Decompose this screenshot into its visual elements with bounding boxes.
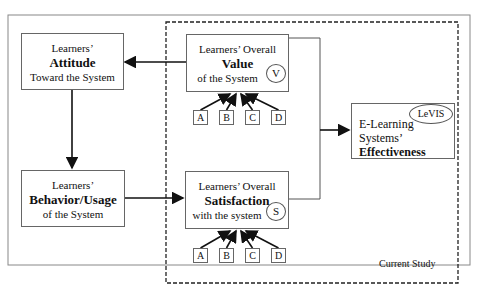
satisfaction-factor-arrow: [227, 231, 237, 248]
satisfaction-line1: Learners’ Overall: [186, 179, 288, 193]
value-factor-arrow: [201, 94, 231, 110]
behavior-title: Behavior/Usage: [22, 192, 124, 207]
behavior-line1: Learners’: [22, 178, 124, 192]
satisfaction-factor-d: D: [271, 248, 286, 263]
connector-value-satisfaction: [288, 38, 320, 199]
value-factor-c: C: [245, 110, 260, 125]
levis-badge: LeVIS: [409, 104, 453, 124]
current-study-label: Current Study: [379, 258, 435, 269]
value-factor-arrow: [227, 94, 237, 110]
satisfaction-factor-arrow: [201, 231, 231, 248]
effectiveness-line2: Systems’: [359, 131, 454, 145]
behavior-box: Learners’ Behavior/Usage of the System: [21, 170, 125, 227]
satisfaction-badge: S: [266, 202, 286, 221]
attitude-title: Attitude: [22, 55, 123, 70]
satisfaction-factor-b: B: [219, 248, 234, 263]
value-line1: Learners’ Overall: [187, 42, 288, 56]
value-factor-a: A: [193, 110, 208, 125]
behavior-line3: of the System: [22, 207, 124, 221]
attitude-line1: Learners’: [22, 41, 123, 55]
effectiveness-title: Effectiveness: [359, 145, 454, 160]
satisfaction-factor-a: A: [193, 248, 208, 263]
value-badge: V: [266, 64, 286, 83]
value-box: Learners’ Overall Value of the System: [186, 34, 289, 92]
value-factor-d: D: [271, 110, 286, 125]
satisfaction-factor-c: C: [245, 248, 260, 263]
attitude-box: Learners’ Attitude Toward the System: [21, 33, 124, 90]
attitude-line3: Toward the System: [22, 70, 123, 84]
value-factor-b: B: [219, 110, 234, 125]
